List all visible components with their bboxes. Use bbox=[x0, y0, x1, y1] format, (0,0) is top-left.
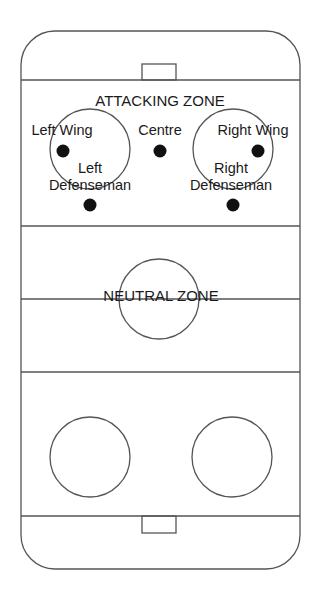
right-defenseman-label-line2: Defenseman bbox=[182, 178, 280, 193]
top-goal-net bbox=[142, 64, 176, 80]
attacking-zone-label: ATTACKING ZONE bbox=[88, 93, 232, 108]
right-wing-dot bbox=[252, 145, 265, 158]
left-defenseman-label-line2: Defenseman bbox=[41, 178, 139, 193]
bottom-goal-net bbox=[142, 516, 176, 533]
left-wing-label: Left Wing bbox=[24, 123, 100, 138]
neutral-zone-label: NEUTRAL ZONE bbox=[99, 288, 223, 303]
bottom-left-faceoff-circle bbox=[50, 417, 130, 497]
centre-label: Centre bbox=[130, 123, 190, 138]
right-wing-label: Right Wing bbox=[210, 123, 296, 138]
bottom-right-faceoff-circle bbox=[192, 417, 272, 497]
right-defenseman-dot bbox=[227, 199, 240, 212]
left-wing-dot bbox=[57, 145, 70, 158]
left-defenseman-label-line1: Left bbox=[60, 161, 120, 176]
left-defenseman-dot bbox=[84, 199, 97, 212]
centre-dot bbox=[154, 145, 167, 158]
right-defenseman-label-line1: Right bbox=[200, 161, 262, 176]
